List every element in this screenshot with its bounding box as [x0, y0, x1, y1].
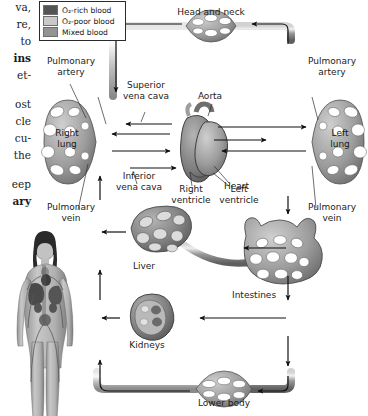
legend-box: O₂-rich blood O₂-poor blood Mixed blood: [39, 1, 126, 41]
margin-fragment: et-: [17, 70, 31, 81]
legend-swatch-mixed: [43, 27, 58, 37]
legend-item-mixed: Mixed blood: [43, 27, 122, 37]
margin-fragment: to: [20, 36, 31, 47]
margin-fragment: re,: [16, 19, 31, 30]
label-pulmonary-artery-left: Pulmonaryartery: [296, 56, 368, 77]
label-left-lung: Leftlung: [318, 128, 362, 149]
label-superior-vena-cava: Superiorvena cava: [108, 80, 184, 101]
margin-fragment: the: [14, 150, 31, 161]
label-lower-body: Lower body: [186, 398, 262, 409]
legend-item-o2-poor: O₂-poor blood: [43, 16, 122, 26]
legend-swatch-o2-rich: [43, 5, 58, 15]
label-left-ventricle: Leftventricle: [212, 184, 266, 205]
legend-item-o2-rich: O₂-rich blood: [43, 5, 122, 15]
label-liver: Liver: [122, 261, 166, 272]
legend-swatch-o2-poor: [43, 16, 58, 26]
label-head-and-neck: Head and neck: [152, 7, 270, 18]
margin-fragment: cle: [16, 116, 31, 127]
margin-fragment: va,: [15, 2, 31, 13]
legend-label-o2-poor: O₂-poor blood: [62, 17, 114, 26]
label-pulmonary-vein-left: Pulmonaryvein: [296, 202, 368, 223]
margin-fragment: ost: [15, 99, 31, 110]
margin-fragment: ins: [13, 53, 31, 64]
margin-fragment: cu-: [15, 133, 31, 144]
label-right-lung: Rightlung: [44, 128, 90, 149]
label-kidneys: Kidneys: [118, 340, 176, 351]
legend-label-mixed: Mixed blood: [62, 28, 108, 37]
legend-label-o2-rich: O₂-rich blood: [62, 6, 111, 15]
margin-text-column: va, re, to ins et- ost cle cu- the eep a…: [0, 0, 33, 416]
margin-fragment: ary: [13, 196, 31, 207]
label-intestines: Intestines: [232, 290, 302, 301]
figure-canvas: O₂-rich blood O₂-poor blood Mixed blood …: [0, 0, 368, 416]
margin-fragment: eep: [12, 179, 31, 190]
label-right-ventricle: Rightventricle: [164, 184, 218, 205]
label-pulmonary-vein-right: Pulmonaryvein: [32, 202, 110, 223]
label-aorta: Aorta: [186, 91, 234, 102]
label-pulmonary-artery-right: Pulmonaryartery: [32, 56, 110, 77]
